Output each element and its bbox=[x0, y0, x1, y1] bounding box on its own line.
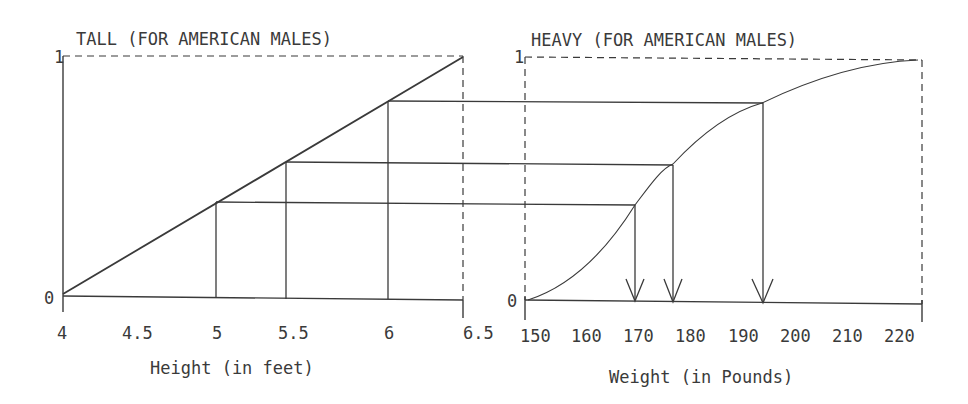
x-tick-210: 210 bbox=[832, 326, 863, 346]
x-axis bbox=[63, 296, 463, 300]
x-tick-6: 6 bbox=[384, 323, 394, 343]
x-tick-180: 180 bbox=[675, 326, 706, 346]
tall-chart bbox=[63, 56, 763, 318]
tall-membership-line bbox=[63, 57, 463, 294]
x-tick-5: 5 bbox=[212, 323, 222, 343]
x-tick-4-5: 4.5 bbox=[122, 323, 153, 343]
y-tick-0-left: 0 bbox=[44, 288, 54, 308]
fuzzy-membership-figure: TALL (FOR AMERICAN MALES) 1 0 4 4.5 5 5.… bbox=[0, 0, 968, 404]
x-axis-label-weight: Weight (in Pounds) bbox=[609, 367, 793, 387]
heavy-membership-curve bbox=[528, 60, 918, 300]
x-axis-right bbox=[525, 300, 922, 304]
heavy-chart-title: HEAVY (FOR AMERICAN MALES) bbox=[531, 30, 797, 50]
y-tick-0-right: 0 bbox=[507, 291, 517, 311]
y-tick-1-right: 1 bbox=[514, 47, 524, 67]
x-tick-4: 4 bbox=[57, 323, 67, 343]
x-tick-160: 160 bbox=[571, 326, 602, 346]
x-tick-6-5: 6.5 bbox=[463, 323, 494, 343]
y-tick-1-left: 1 bbox=[54, 47, 64, 67]
top-dashed-line-right bbox=[525, 57, 922, 60]
x-tick-220: 220 bbox=[884, 326, 915, 346]
x-axis-label-height: Height (in feet) bbox=[150, 358, 314, 378]
heavy-chart bbox=[525, 57, 922, 322]
x-tick-200: 200 bbox=[780, 326, 811, 346]
projection-horizontal-high bbox=[388, 101, 763, 103]
projection-horizontal-mid bbox=[286, 162, 673, 165]
x-tick-190: 190 bbox=[728, 326, 759, 346]
x-tick-5-5: 5.5 bbox=[278, 323, 309, 343]
tall-chart-title: TALL (FOR AMERICAN MALES) bbox=[76, 29, 332, 49]
x-tick-150: 150 bbox=[520, 326, 551, 346]
projection-horizontal-low bbox=[216, 202, 635, 205]
x-tick-170: 170 bbox=[623, 326, 654, 346]
